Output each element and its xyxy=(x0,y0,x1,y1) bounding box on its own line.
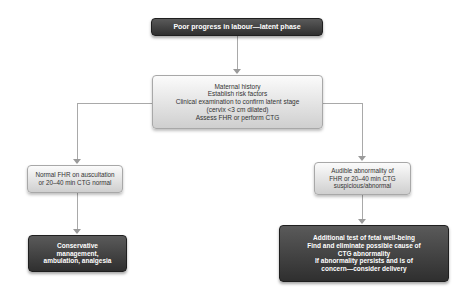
node-text: Additional test of fetal well-being xyxy=(313,234,415,242)
node-text: Clinical examination to confirm latent s… xyxy=(176,98,300,106)
node-text: Establish risk factors xyxy=(208,90,268,98)
node-text: FHR or 20–40 min CTG xyxy=(329,175,396,183)
node-additional-testing: Additional test of fetal well-being Find… xyxy=(279,225,449,282)
node-text: suspicious/abnormal xyxy=(334,182,391,190)
node-text: concern—consider delivery xyxy=(321,265,406,273)
connector-to-normal xyxy=(77,103,78,160)
node-text: Normal FHR on auscultation xyxy=(35,171,114,179)
node-text: Poor progress in labour—latent phase xyxy=(173,23,300,31)
node-text: CTG abnormality xyxy=(338,250,390,258)
arrow-to-normal xyxy=(73,159,81,164)
node-text: ambulation, analgesia xyxy=(44,257,112,265)
node-abnormal-fhr: Audible abnormality of FHR or 20–40 min … xyxy=(314,162,411,195)
node-text: If abnormality persists and is of xyxy=(315,257,413,265)
node-conservative-management: Conservative management, ambulation, ana… xyxy=(28,235,127,272)
node-assessment: Maternal history Establish risk factors … xyxy=(152,75,323,129)
node-text: or 20–40 min CTG normal xyxy=(39,179,112,187)
node-text: Maternal history xyxy=(214,83,260,91)
node-text: Assess FHR or perform CTG xyxy=(196,114,279,122)
node-text: Conservative xyxy=(57,242,98,250)
node-poor-progress: Poor progress in labour—latent phase xyxy=(151,18,323,36)
arrow-to-additional-test xyxy=(358,219,366,224)
arrow-to-abnormal xyxy=(358,156,366,161)
connector-abnormal-to-action xyxy=(362,195,363,220)
connector-top-to-assessment xyxy=(237,36,238,70)
node-text: Find and eliminate possible cause of xyxy=(307,242,420,250)
node-text: (cervix <3 cm dilated) xyxy=(207,106,269,114)
node-normal-fhr: Normal FHR on auscultation or 20–40 min … xyxy=(27,165,123,193)
node-text: Audible abnormality of xyxy=(331,167,393,175)
arrow-to-conservative xyxy=(73,229,81,234)
node-text: management, xyxy=(57,250,99,258)
connector-normal-to-action xyxy=(77,193,78,230)
connector-to-abnormal xyxy=(362,103,363,157)
arrow-to-assessment xyxy=(233,69,241,74)
